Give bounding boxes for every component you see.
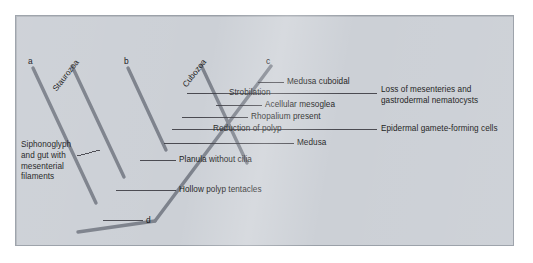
- character-label-hollow-polyp-tentacles: Hollow polyp tentacles: [179, 185, 262, 196]
- branch-stem-d: [78, 221, 155, 232]
- character-label-medusa: Medusa: [297, 138, 326, 149]
- taxon-label-a: a: [28, 56, 33, 66]
- character-label-strobilation: Strobilation: [229, 88, 271, 99]
- siphonoglyph-line-2: and gut with: [21, 151, 81, 162]
- siphonoglyph-line-3: mesenterial: [21, 162, 81, 173]
- character-label-medusa-cuboidal: Medusa cuboidal: [287, 77, 350, 88]
- siphonoglyph-line-4: filaments: [21, 172, 81, 183]
- character-label-reduction-of-polyp: Reduction of polyp: [213, 124, 282, 135]
- character-label-planula-without-cilia: Planula without cilia: [179, 155, 252, 166]
- character-label-acellular-mesoglea: Acellular mesoglea: [265, 100, 335, 111]
- figure-canvas: Staurozoa Cubozoa a b c d Siphonoglyph a…: [0, 0, 533, 263]
- character-label-rhopalium-present: Rhopalium present: [251, 112, 321, 123]
- taxon-label-c: c: [266, 56, 270, 66]
- taxon-label-d: d: [146, 215, 151, 225]
- character-label-epidermal-gamete-forming-cells: Epidermal gamete-forming cells: [381, 124, 498, 135]
- branch-b: [128, 68, 166, 150]
- siphonoglyph-line-1: Siphonoglyph: [21, 140, 81, 151]
- loss-of-mesenteries-line-1: Loss of mesenteries and: [381, 85, 521, 96]
- loss-of-mesenteries-line-2: gastrodermal nematocysts: [381, 96, 521, 107]
- character-label-loss-of-mesenteries: Loss of mesenteries and gastrodermal nem…: [381, 85, 521, 107]
- character-label-siphonoglyph: Siphonoglyph and gut with mesenterial fi…: [21, 140, 81, 183]
- taxon-label-b: b: [124, 56, 129, 66]
